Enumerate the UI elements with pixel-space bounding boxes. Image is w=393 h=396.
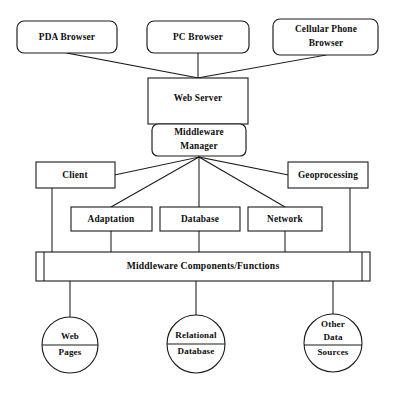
database-label: Database — [181, 214, 219, 224]
node-other-data-sources[interactable]: Other Data Sources — [304, 314, 362, 372]
node-adaptation[interactable]: Adaptation — [71, 207, 152, 231]
connector-manager-to-geoprocessing — [199, 157, 288, 175]
components-bar-label: Middleware Components/Functions — [127, 260, 280, 271]
node-middleware-components-functions[interactable]: Middleware Components/Functions — [36, 252, 370, 281]
connector-pda-browser-to-web-server — [67, 53, 198, 78]
connector-manager-to-adaptation — [111, 157, 199, 207]
diagram-canvas: PDA Browser PC Browser Cellular Phone Br… — [0, 0, 393, 396]
pc-browser-label: PC Browser — [173, 32, 223, 42]
relational-database-label-line1: Relational — [175, 330, 217, 340]
other-data-sources-label-line2: Data — [323, 332, 343, 342]
node-database[interactable]: Database — [160, 207, 240, 231]
node-network[interactable]: Network — [248, 207, 322, 231]
connector-cellular-phone-browser-to-web-server — [198, 55, 326, 78]
architecture-diagram: PDA Browser PC Browser Cellular Phone Br… — [0, 0, 393, 396]
web-server-label: Web Server — [174, 93, 223, 103]
other-data-sources-label-line1: Other — [321, 319, 345, 329]
client-label: Client — [62, 170, 88, 180]
node-middleware-manager[interactable]: Middleware Manager — [152, 124, 246, 156]
node-client[interactable]: Client — [36, 162, 115, 188]
middleware-manager-label-line1: Middleware — [174, 127, 224, 137]
pda-browser-label: PDA Browser — [39, 32, 95, 42]
cellular-phone-browser-label-line1: Cellular Phone — [295, 24, 357, 34]
geoprocessing-label: Geoprocessing — [298, 170, 358, 180]
connector-manager-to-network — [199, 157, 285, 207]
web-pages-label-line2: Pages — [59, 347, 82, 357]
node-pc-browser[interactable]: PC Browser — [147, 21, 249, 53]
cellular-phone-browser-label-line2: Browser — [309, 38, 344, 48]
connector-manager-to-client — [115, 157, 199, 175]
connector-group-manager-to-services — [111, 157, 288, 207]
connector-group-components-bar-to-data-stores — [70, 281, 333, 317]
middleware-manager-label-line2: Manager — [180, 141, 217, 151]
web-pages-label-line1: Web — [61, 331, 79, 341]
connector-group-browsers-to-server — [67, 53, 326, 78]
node-web-pages[interactable]: Web Pages — [42, 317, 98, 373]
other-data-sources-label-line3: Sources — [317, 347, 348, 357]
node-pda-browser[interactable]: PDA Browser — [17, 21, 117, 53]
relational-database-label-line2: Database — [178, 346, 215, 356]
node-relational-database[interactable]: Relational Database — [167, 315, 225, 373]
node-cellular-phone-browser[interactable]: Cellular Phone Browser — [273, 19, 378, 55]
node-web-server[interactable]: Web Server — [148, 78, 248, 124]
node-geoprocessing[interactable]: Geoprocessing — [288, 162, 368, 188]
network-label: Network — [267, 214, 304, 224]
adaptation-label: Adaptation — [88, 214, 135, 224]
